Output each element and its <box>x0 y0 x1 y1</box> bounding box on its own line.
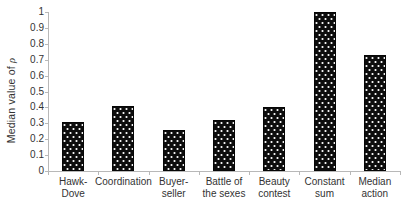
y-tick-label: 1 <box>14 7 44 17</box>
y-tick-label: 0.8 <box>14 39 44 49</box>
x-axis-line <box>48 171 401 172</box>
category-label: Hawk- Dove <box>59 176 87 200</box>
bar <box>112 106 134 171</box>
x-axis-tick <box>299 172 300 175</box>
x-axis-tick <box>48 172 49 175</box>
y-axis-tick <box>45 123 48 124</box>
y-tick-label: 0.2 <box>14 134 44 144</box>
bar <box>62 122 84 171</box>
x-axis-tick <box>350 172 351 175</box>
bar-chart-figure: Median value of ρ 00.10.20.30.40.50.60.7… <box>0 0 405 213</box>
category-label: Beauty contest <box>258 176 290 200</box>
y-axis-tick <box>45 60 48 61</box>
category-label: Coordination <box>95 176 152 188</box>
y-axis-tick <box>45 155 48 156</box>
y-axis-line <box>48 12 49 172</box>
y-tick-label: 0.9 <box>14 23 44 33</box>
y-axis-tick <box>45 12 48 13</box>
bar <box>213 120 235 171</box>
x-axis-tick <box>98 172 99 175</box>
y-axis-tick <box>45 44 48 45</box>
bar <box>163 130 185 171</box>
y-tick-label: 0.5 <box>14 87 44 97</box>
y-axis-tick <box>45 92 48 93</box>
category-label: Median action <box>358 176 391 200</box>
y-tick-label: 0.1 <box>14 150 44 160</box>
x-axis-tick <box>400 172 401 175</box>
x-axis-tick <box>149 172 150 175</box>
y-tick-label: 0.7 <box>14 55 44 65</box>
y-tick-label: 0.6 <box>14 71 44 81</box>
category-label: Buyer- seller <box>159 176 188 200</box>
bar <box>263 107 285 171</box>
category-label: Battle of the sexes <box>203 176 246 200</box>
y-axis-tick <box>45 139 48 140</box>
x-axis-tick <box>249 172 250 175</box>
y-axis-tick <box>45 107 48 108</box>
bar <box>314 12 336 171</box>
bar <box>364 55 386 171</box>
category-label: Constant sum <box>305 176 345 200</box>
x-axis-tick <box>199 172 200 175</box>
y-tick-label: 0.3 <box>14 118 44 128</box>
y-tick-label: 0 <box>14 166 44 176</box>
y-axis-tick <box>45 28 48 29</box>
y-axis-tick <box>45 76 48 77</box>
y-tick-label: 0.4 <box>14 102 44 112</box>
